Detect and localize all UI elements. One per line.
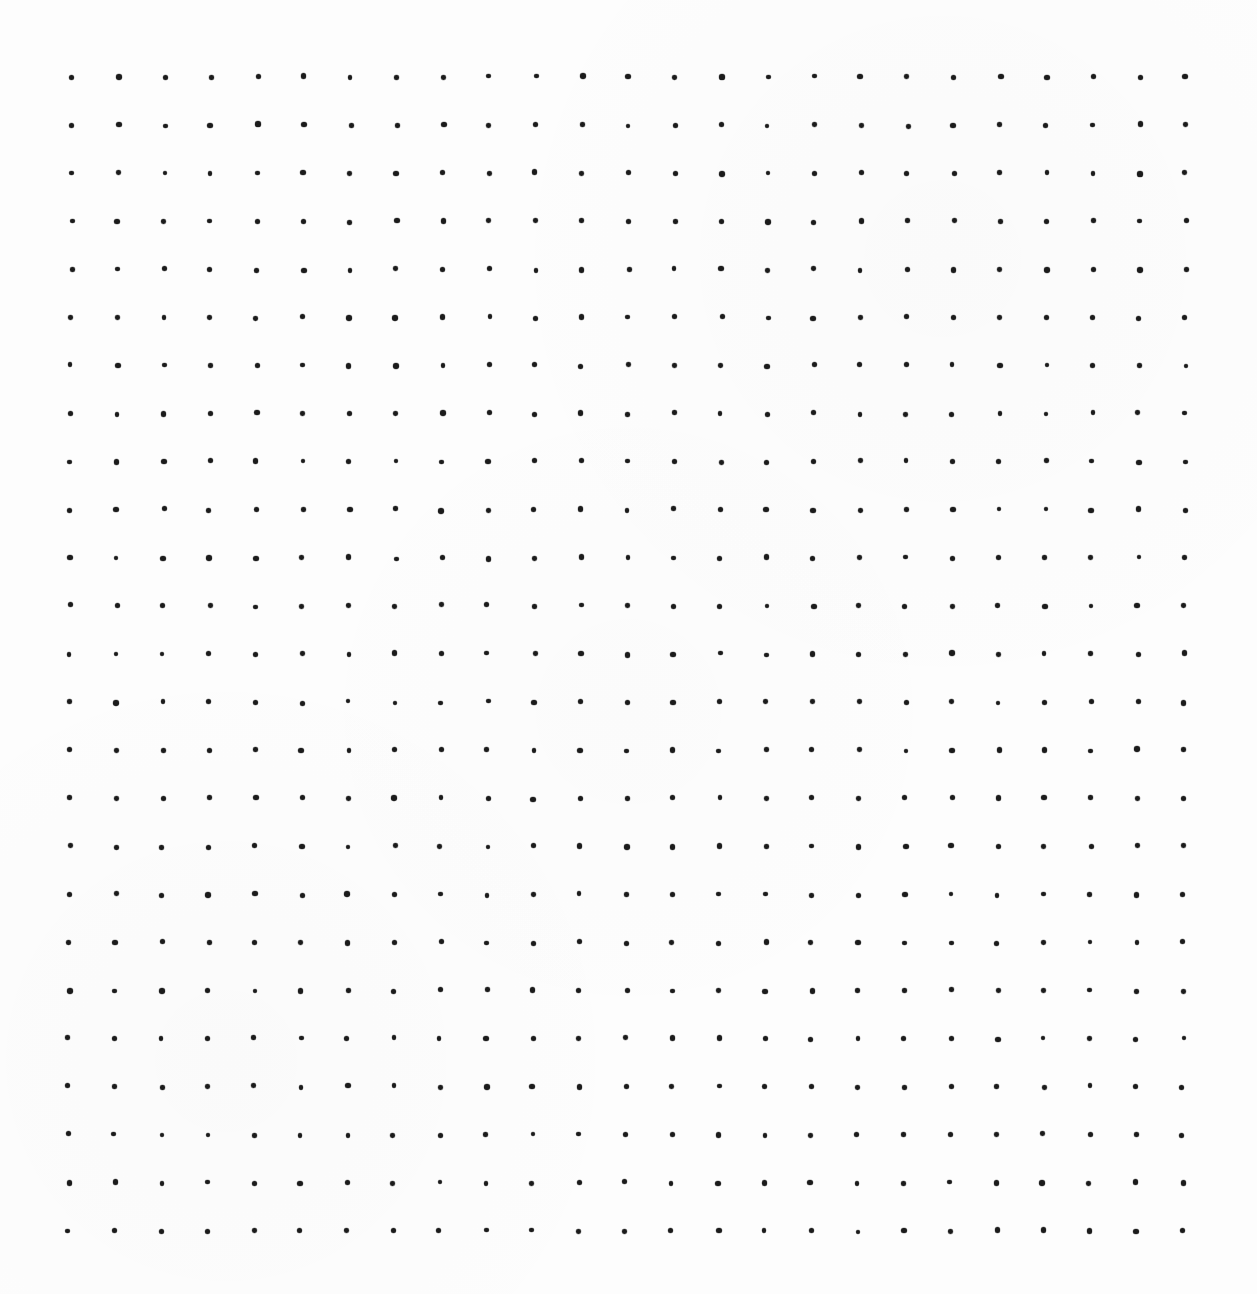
grid-dot [160,603,165,608]
grid-dot [347,411,352,416]
grid-dot [1136,316,1141,321]
grid-dot [161,459,166,464]
grid-dot [439,939,444,944]
grid-dot [952,218,957,223]
grid-dot [69,123,74,128]
grid-dot [208,458,213,463]
grid-dot [205,988,210,993]
grid-dot [393,506,398,511]
grid-dot [764,939,769,944]
grid-dot [859,218,864,223]
grid-dot [392,604,397,609]
grid-dot [346,845,351,850]
grid-dot [160,652,165,657]
grid-dot [625,508,630,513]
grid-dot [904,507,909,512]
grid-dot [719,122,724,127]
grid-dot [809,1228,814,1233]
grid-dot [1043,123,1048,128]
grid-dot [160,1181,165,1186]
grid-dot [486,699,491,704]
grid-dot [950,604,955,609]
grid-dot [997,122,1002,127]
grid-dot [811,604,816,609]
grid-dot [533,122,538,127]
grid-dot [116,170,121,175]
grid-dot [111,1132,116,1137]
grid-dot [577,843,582,848]
grid-dot [950,123,955,128]
grid-dot [392,315,397,320]
grid-dot [576,988,581,993]
grid-dot [1089,699,1094,704]
grid-dot [69,75,74,80]
grid-dot [1089,844,1094,849]
grid-dot [391,989,396,994]
grid-dot [673,171,678,176]
grid-dot [392,650,397,655]
grid-dot [1184,364,1189,369]
grid-dot [670,1035,675,1040]
grid-dot [579,458,584,463]
grid-dot [206,651,211,656]
grid-dot [716,1228,721,1233]
grid-dot [160,1085,165,1090]
grid-dot [951,267,956,272]
grid-dot [348,75,353,80]
grid-dot [577,891,582,896]
grid-dot [533,218,538,223]
grid-dot [346,554,351,559]
grid-dot [209,75,214,80]
grid-dot [719,171,724,176]
grid-dot [65,1035,70,1040]
grid-dot [391,1228,396,1233]
grid-dot [579,218,584,223]
grid-dot [810,651,815,656]
grid-dot [162,315,167,320]
grid-dot [532,458,537,463]
grid-dot [159,845,164,850]
grid-dot [996,988,1001,993]
grid-dot [486,556,491,561]
grid-dot [1135,410,1140,415]
grid-dot [438,892,443,897]
grid-dot [855,988,860,993]
grid-dot [1042,747,1047,752]
grid-dot [670,795,675,800]
grid-dot [438,508,443,513]
grid-dot [856,796,861,801]
grid-dot [1040,1131,1045,1136]
grid-dot [437,1036,442,1041]
grid-dot [856,844,861,849]
grid-dot [579,267,584,272]
grid-dot [68,362,73,367]
grid-dot [1091,267,1096,272]
grid-dot [994,1180,999,1185]
grid-dot [810,316,815,321]
grid-dot [624,844,629,849]
grid-dot [998,411,1003,416]
grid-dot [345,1180,350,1185]
grid-dot [1088,1083,1093,1088]
grid-dot [949,650,954,655]
grid-dot [906,124,911,129]
grid-dot [947,1180,952,1185]
grid-dot [161,699,166,704]
grid-dot [1133,1084,1138,1089]
grid-dot [206,508,211,513]
grid-dot [346,699,351,704]
grid-dot [112,1036,117,1041]
grid-dot [672,75,677,80]
grid-dot [437,844,442,849]
grid-dot [160,556,165,561]
grid-dot [1182,74,1187,79]
grid-dot [903,652,908,657]
grid-dot [1042,604,1047,609]
grid-dot [391,795,396,800]
grid-dot [810,508,815,513]
grid-dot [717,1035,722,1040]
grid-dot [904,74,909,79]
grid-dot [254,268,259,273]
grid-dot [576,1229,581,1234]
grid-dot [626,219,631,224]
